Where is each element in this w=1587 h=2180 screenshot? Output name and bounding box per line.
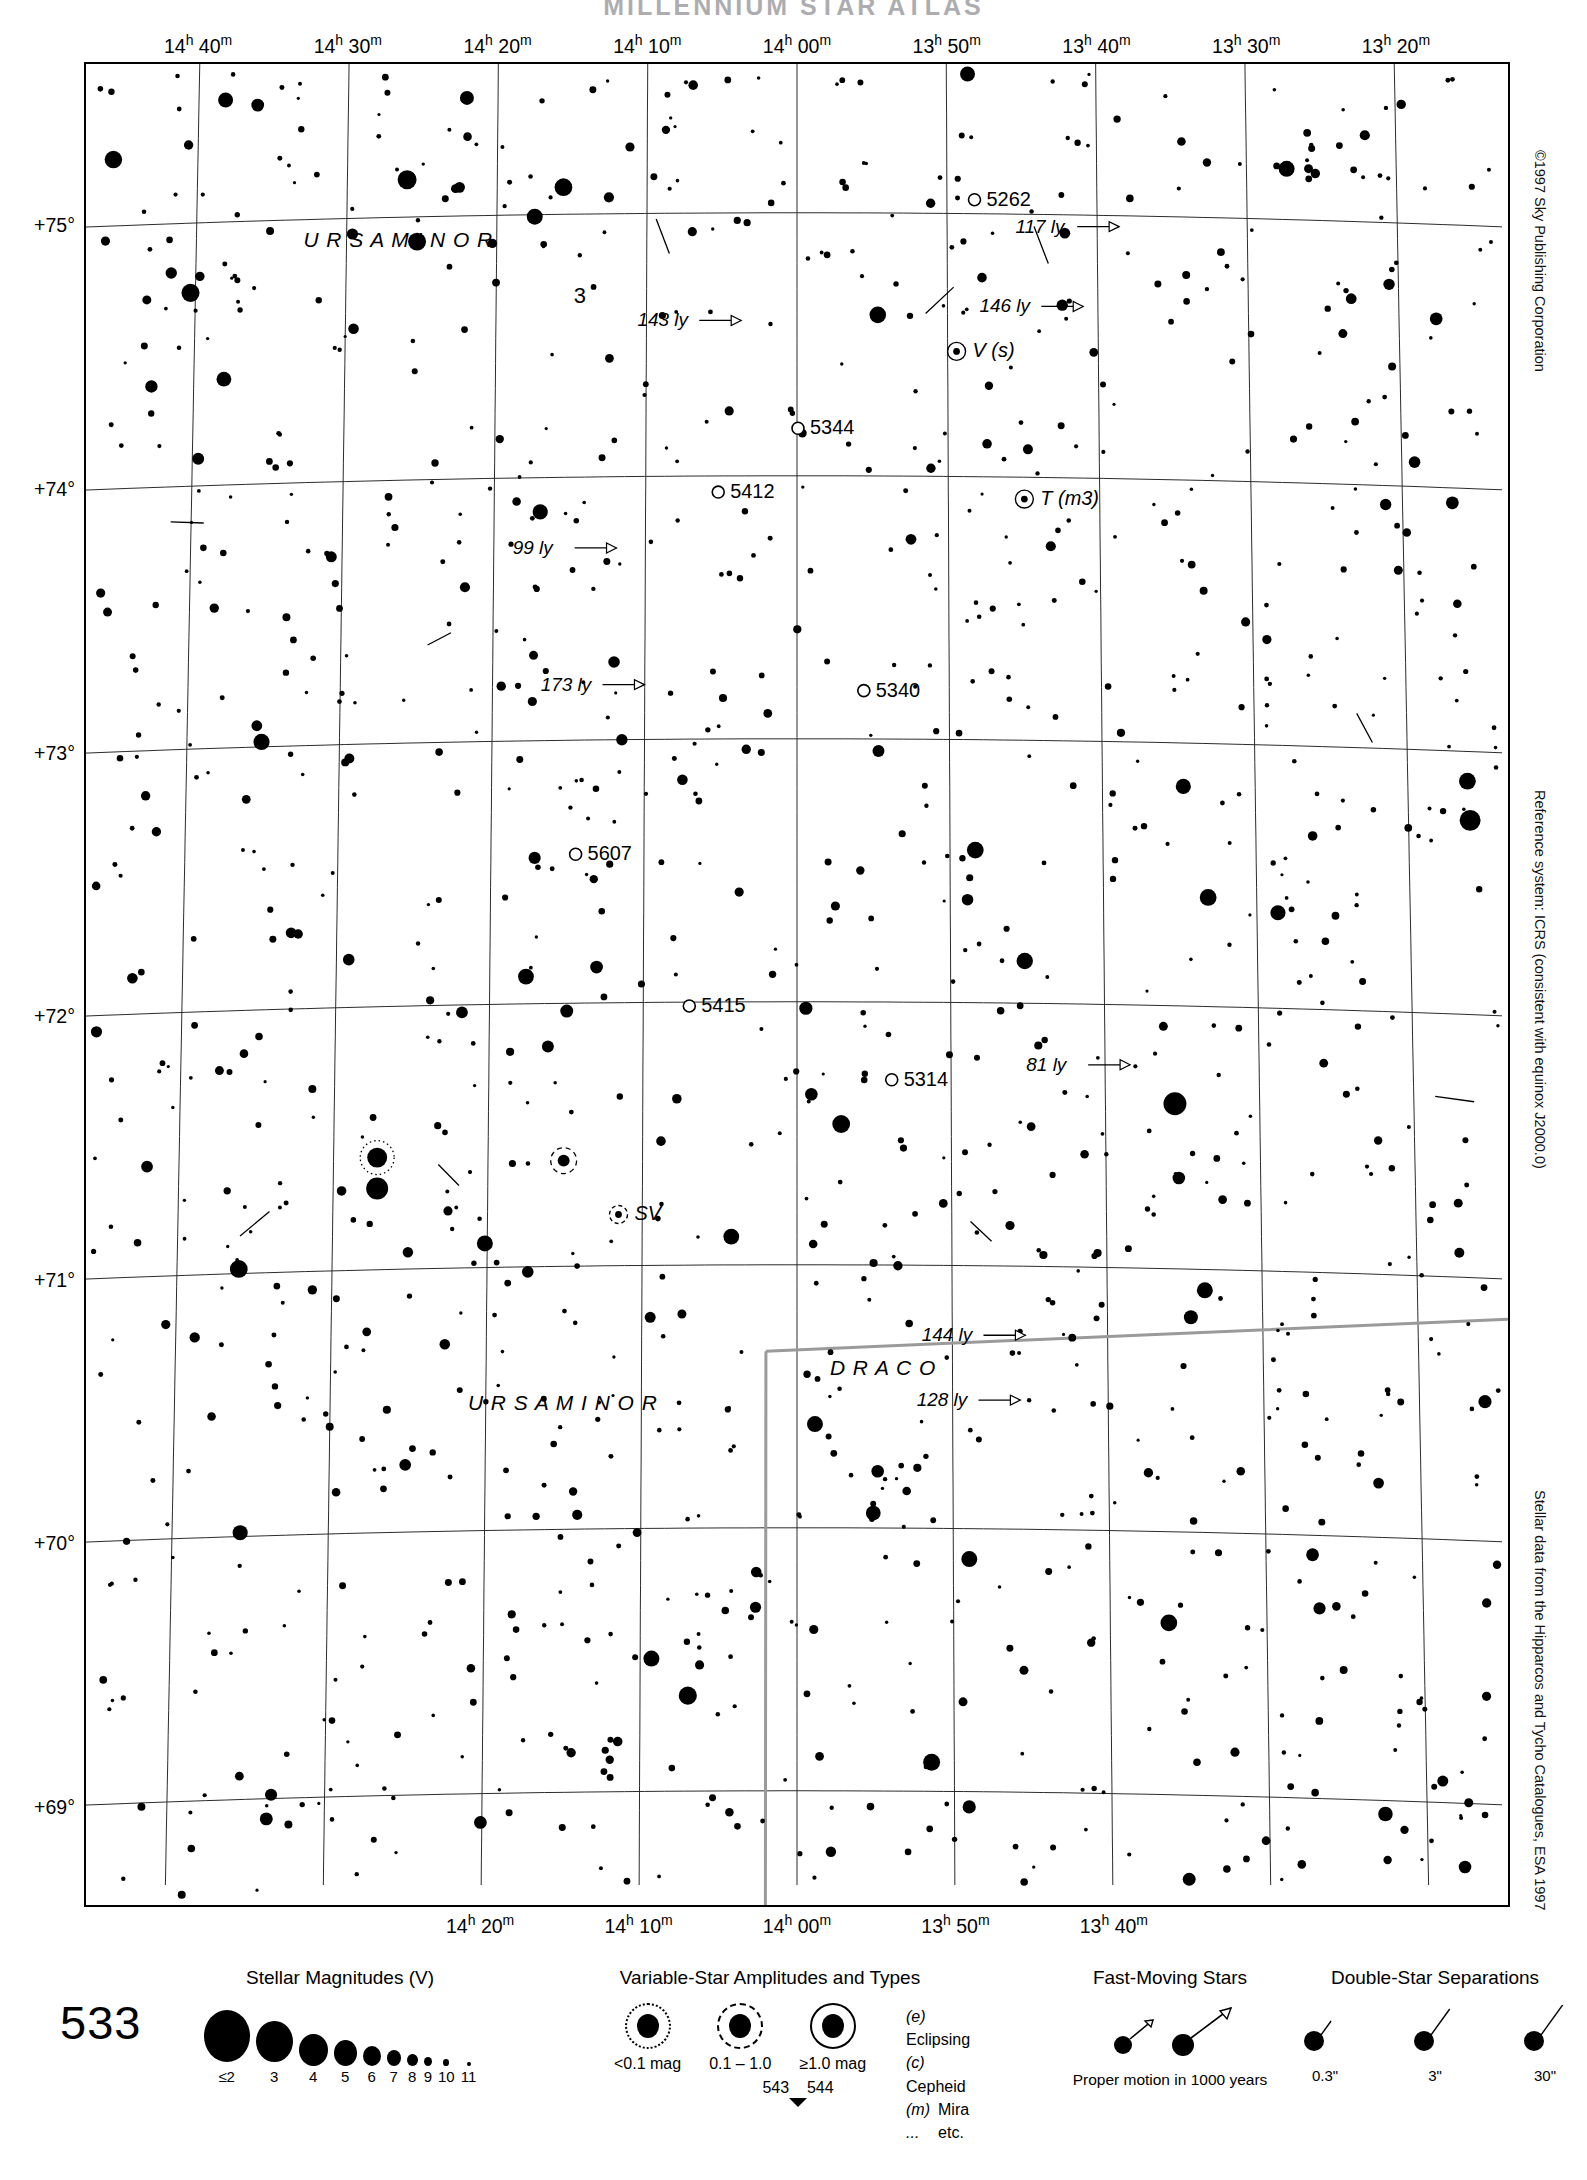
- ra-tick-label: 13h 50m: [921, 1912, 989, 1938]
- legend-variable-label: 0.1 – 1.0: [709, 2055, 771, 2073]
- ngc-label: 5415: [701, 994, 745, 1016]
- magnitude-dot-icon: [334, 2040, 357, 2066]
- legend-double-label: 30": [1534, 2067, 1556, 2084]
- ra-tick-label: 14h 20m: [446, 1912, 514, 1938]
- variable-type-name: Mira: [938, 2101, 969, 2118]
- legend-magnitude-item: 8: [407, 2054, 418, 2085]
- ngc-label: 5344: [810, 416, 854, 438]
- sky-plot[interactable]: U R S A M I N O RU R S A M I N O RD R A …: [86, 64, 1508, 1905]
- distance-label: 128 ly: [917, 1389, 969, 1410]
- legend-variables: Variable-Star Amplitudes and Types <0.1 …: [600, 1967, 940, 2144]
- constellation-label: U R S A M I N O R: [303, 228, 493, 251]
- legend-magnitude-item: 6: [363, 2046, 381, 2085]
- legend-variable-label: ≥1.0 mag: [799, 2055, 866, 2073]
- variable-type-name: Eclipsing: [906, 2031, 970, 2048]
- variable-core-icon: [822, 2014, 844, 2038]
- legend-magnitude-label: 5: [341, 2068, 349, 2085]
- legend-magnitude-item: ≤2: [204, 2010, 250, 2085]
- page-nav-next[interactable]: 544: [807, 2079, 834, 2096]
- legend-variable-item: 0.1 – 1.0: [709, 2003, 771, 2073]
- dec-tick-label: +69°: [5, 1795, 75, 1818]
- legend-magnitude-label: 8: [408, 2068, 416, 2085]
- ra-tick-label: 14h 10m: [604, 1912, 672, 1938]
- legend-magnitude-label: 10: [438, 2068, 455, 2085]
- page-nav-prev[interactable]: 543: [762, 2079, 789, 2096]
- magnitude-dot-icon: [204, 2010, 250, 2062]
- variable-type-name: Cepheid: [906, 2078, 966, 2095]
- legend-magnitude-item: 11: [461, 2062, 477, 2085]
- distance-label: 117 ly: [1015, 216, 1066, 237]
- variable-amplitude-icon: [625, 2003, 671, 2049]
- legend-magnitude-label: 7: [390, 2068, 398, 2085]
- legend-fast-moving: Fast-Moving Stars Proper motion in 1000 …: [1055, 1967, 1285, 2089]
- ra-tick-label: 13h 40m: [1080, 1912, 1148, 1938]
- legend-variable-type-row: (e)Eclipsing: [906, 2005, 970, 2051]
- legend-fast-moving-caption: Proper motion in 1000 years: [1055, 2071, 1285, 2089]
- distance-label: 146 ly: [979, 295, 1031, 316]
- double-star-icon: [1402, 2005, 1468, 2057]
- magnitude-dot-icon: [407, 2054, 418, 2066]
- variable-star-label: T (m3): [1040, 487, 1099, 509]
- legend-magnitude-item: 5: [334, 2040, 357, 2085]
- dec-tick-label: +73°: [5, 741, 75, 764]
- legend-fast-moving-title: Fast-Moving Stars: [1055, 1967, 1285, 1989]
- variable-type-code: ...: [906, 2121, 938, 2144]
- legend-magnitude-label: 6: [368, 2068, 376, 2085]
- dec-tick-label: +74°: [5, 477, 75, 500]
- legend-magnitude-item: 10: [438, 2059, 455, 2085]
- variable-type-code: (e): [906, 2005, 938, 2028]
- legend-variable-types: (e)Eclipsing(c)Cepheid(m)Mira...etc.: [906, 2005, 970, 2144]
- ra-tick-label: 14h 40m: [164, 32, 232, 58]
- legend-magnitudes: Stellar Magnitudes (V) ≤234567891011: [175, 1967, 505, 2085]
- dec-tick-label: +70°: [5, 1532, 75, 1555]
- variable-amplitude-icon: [810, 2003, 856, 2049]
- legend-magnitude-item: 3: [256, 2021, 293, 2085]
- legend-magnitude-item: 4: [299, 2034, 328, 2085]
- ra-tick-label: 13h 40m: [1062, 32, 1130, 58]
- legend-doubles-title: Double-Star Separations: [1300, 1967, 1570, 1989]
- reference-system-note: Reference system: ICRS (consistent with …: [1532, 790, 1548, 1169]
- legend-variable-item: <0.1 mag: [614, 2003, 681, 2073]
- legend-double-label: 3": [1428, 2067, 1442, 2084]
- distance-label: 99 ly: [513, 537, 555, 558]
- variable-type-code: (c): [906, 2051, 938, 2074]
- constellation-label: D R A C O: [830, 1356, 936, 1379]
- legend-magnitude-item: 9: [424, 2057, 432, 2085]
- magnitude-dot-icon: [443, 2059, 449, 2066]
- legend-double-item: 30": [1512, 2005, 1578, 2084]
- ngc-label: 5412: [730, 480, 774, 502]
- copyright-note: ©1997 Sky Publishing Corporation: [1532, 150, 1548, 372]
- legend-double-label: 0.3": [1312, 2067, 1338, 2084]
- legend-magnitude-label: 11: [461, 2068, 477, 2085]
- magnitude-dot-icon: [299, 2034, 328, 2066]
- page-nav[interactable]: 543 544: [718, 2079, 878, 2107]
- variable-star-label: V (s): [973, 339, 1015, 361]
- legend-variable-type-row: (c)Cepheid: [906, 2051, 970, 2097]
- star-chart[interactable]: U R S A M I N O RU R S A M I N O RD R A …: [84, 62, 1510, 1907]
- legend-doubles-row: 0.3"3"30": [1300, 2005, 1570, 2084]
- legend-magnitude-label: ≤2: [218, 2068, 235, 2085]
- legend: 533 Stellar Magnitudes (V) ≤234567891011…: [0, 1955, 1587, 2180]
- legend-magnitudes-title: Stellar Magnitudes (V): [175, 1967, 505, 1989]
- legend-magnitude-label: 9: [424, 2068, 432, 2085]
- dec-tick-label: +71°: [5, 1268, 75, 1291]
- legend-double-item: 3": [1402, 2005, 1468, 2084]
- dec-tick-label: +75°: [5, 214, 75, 237]
- distance-label: 144 ly: [922, 1324, 974, 1345]
- ngc-label: 5340: [876, 679, 920, 701]
- ra-tick-label: 14h 10m: [613, 32, 681, 58]
- ra-tick-label: 13h 20m: [1362, 32, 1430, 58]
- magnitude-dot-icon: [256, 2021, 293, 2062]
- distance-label: 173 ly: [541, 674, 593, 695]
- variable-star-label: SV: [634, 1202, 662, 1224]
- ra-tick-label: 14h 20m: [463, 32, 531, 58]
- variable-type-name: etc.: [938, 2124, 964, 2141]
- ra-tick-label: 13h 50m: [913, 32, 981, 58]
- variable-amplitude-icon: [717, 2003, 763, 2049]
- dec-tick-label: +72°: [5, 1005, 75, 1028]
- constellation-label: U R S A M I N O R: [468, 1391, 658, 1414]
- legend-magnitude-item: 7: [387, 2050, 401, 2085]
- legend-magnitude-label: 3: [270, 2068, 278, 2085]
- legend-variables-row: <0.1 mag0.1 – 1.0≥1.0 mag: [600, 2003, 880, 2073]
- legend-doubles: Double-Star Separations 0.3"3"30": [1300, 1967, 1570, 2084]
